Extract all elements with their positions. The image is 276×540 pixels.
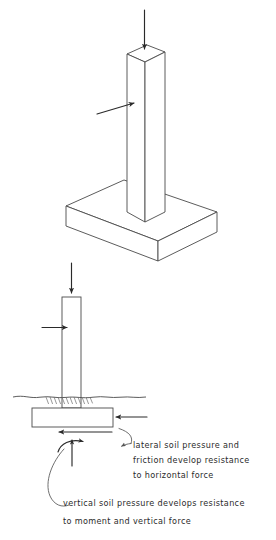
vertical-note-line-1: vertical soil pressure develops resistan… [63, 498, 245, 508]
lateral-note-line-2: friction develop resistance [133, 455, 250, 465]
elevation-column [62, 297, 81, 408]
lateral-note-line-1: lateral soil pressure and [133, 440, 239, 450]
pedestal-column-isometric [127, 45, 165, 222]
annotation-lateral-note: lateral soil pressure and friction devel… [133, 440, 250, 480]
column-left-face [127, 54, 145, 222]
vertical-note-line-2: to moment and vertical force [63, 516, 191, 526]
column-right-face [145, 52, 165, 222]
top-isometric-view [66, 10, 217, 261]
lateral-note-leader [119, 429, 132, 447]
elevation-footing [32, 408, 113, 427]
moment-arc-arrow [58, 441, 83, 452]
footing-diagram: lateral soil pressure and friction devel… [0, 0, 276, 540]
annotation-vertical-note: vertical soil pressure develops resistan… [63, 498, 245, 526]
figure-root: lateral soil pressure and friction devel… [0, 0, 276, 540]
lateral-note-line-3: to horizontal force [133, 470, 214, 480]
bottom-elevation-view [13, 263, 147, 506]
